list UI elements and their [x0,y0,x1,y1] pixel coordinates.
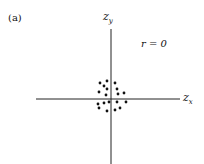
data-point [99,82,102,85]
data-point [106,110,109,113]
data-point [116,101,119,104]
data-point [106,80,109,83]
data-point [125,101,128,104]
data-point [114,109,117,112]
data-point [123,92,126,95]
data-point [103,85,106,88]
data-points [97,80,128,113]
data-point [114,82,117,85]
data-point [98,91,101,94]
data-point [108,101,111,104]
data-point [97,103,100,106]
data-point [103,102,106,105]
data-point [106,88,109,91]
data-point [117,93,120,96]
data-point [116,88,119,91]
data-point [119,107,122,110]
data-point [105,94,108,97]
scatter-plot [0,0,204,164]
data-point [98,107,101,110]
